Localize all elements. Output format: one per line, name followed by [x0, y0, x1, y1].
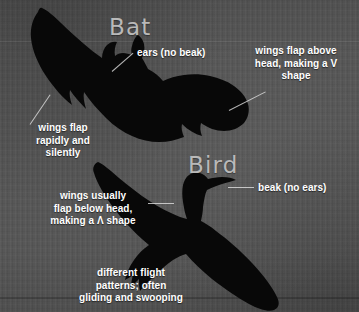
leader-line-beak	[228, 187, 254, 188]
background-seam-upper	[0, 41, 359, 42]
annotation-bird-flight-pattern: different flight patterns; often gliding…	[20, 267, 242, 305]
bird-heading: Bird	[188, 152, 239, 178]
annotation-bird-wing-lambda-shape: wings usually flap below head, making a …	[34, 190, 152, 228]
annotation-bat-ears: ears (no beak)	[137, 47, 206, 60]
bat-vs-bird-infographic: Bat Bird ears (no beak) wings flap above…	[0, 0, 359, 312]
annotation-bird-beak: beak (no ears)	[258, 182, 327, 195]
bat-heading: Bat	[109, 14, 152, 40]
annotation-bat-rapid-flapping: wings flap rapidly and silently	[12, 122, 114, 160]
annotation-bat-wing-v-shape: wings flap above head, making a V shape	[240, 45, 352, 83]
